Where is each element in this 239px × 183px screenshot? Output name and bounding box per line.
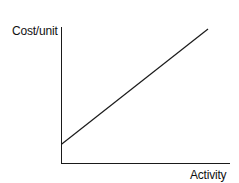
cost-line bbox=[62, 29, 209, 144]
chart-plot bbox=[0, 0, 239, 183]
